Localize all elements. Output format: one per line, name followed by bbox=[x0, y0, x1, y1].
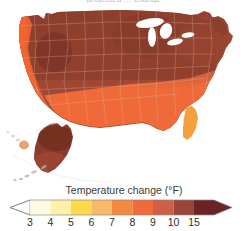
hawaii-oahu bbox=[11, 135, 15, 137]
colorbar-swatch-4-5 bbox=[51, 200, 72, 215]
colorbar-swatch-5-6 bbox=[71, 200, 92, 215]
tick-label-5: 5 bbox=[61, 216, 81, 228]
florida-peninsula bbox=[183, 106, 198, 140]
tick-label-7: 7 bbox=[102, 216, 122, 228]
tick-label-3: 3 bbox=[20, 216, 40, 228]
legend: Temperature change (°F) 3 bbox=[0, 184, 248, 231]
hawaii-island-chain bbox=[6, 131, 29, 150]
tick-label-8: 8 bbox=[123, 216, 143, 228]
tick-label-10: 10 bbox=[164, 216, 184, 228]
lake-michigan bbox=[148, 27, 156, 47]
us-choropleth-map bbox=[0, 4, 248, 184]
colorbar-swatch-8-9 bbox=[133, 200, 154, 215]
colorbar bbox=[0, 199, 248, 216]
aleutian-islands bbox=[13, 164, 47, 181]
alaska-interior-dark bbox=[38, 125, 74, 151]
figure-title-clipped: projected ... change bbox=[0, 0, 248, 3]
hawaii-kauai bbox=[6, 131, 9, 133]
hotspot-great-basin bbox=[36, 32, 72, 72]
colorbar-swatch-7-8 bbox=[112, 200, 133, 215]
colorbar-swatch-6-7 bbox=[92, 200, 113, 215]
colorbar-swatch-10-15 bbox=[174, 200, 195, 215]
alaska-inset bbox=[13, 123, 74, 181]
colorbar-extend-low bbox=[10, 200, 30, 215]
map-panel bbox=[0, 4, 248, 184]
colorbar-svg bbox=[0, 199, 248, 216]
tick-label-9: 9 bbox=[143, 216, 163, 228]
tick-label-4: 4 bbox=[41, 216, 61, 228]
conus-landmass bbox=[10, 8, 240, 144]
figure-container: projected ... change bbox=[0, 0, 248, 231]
alaska-south-lighter bbox=[32, 152, 68, 172]
colorbar-tick-labels: 3 4 5 6 7 8 9 10 15 bbox=[0, 216, 248, 231]
colorbar-extend-high bbox=[194, 200, 232, 215]
hawaii-big-island bbox=[19, 141, 29, 150]
tick-label-6: 6 bbox=[82, 216, 102, 228]
hawaii-maui bbox=[16, 139, 20, 142]
hawaii-inset bbox=[6, 131, 29, 150]
tick-label-15: 15 bbox=[184, 216, 204, 228]
colorbar-swatch-9-10 bbox=[153, 200, 174, 215]
legend-title: Temperature change (°F) bbox=[0, 184, 248, 196]
colorbar-swatch-3-4 bbox=[30, 200, 51, 215]
